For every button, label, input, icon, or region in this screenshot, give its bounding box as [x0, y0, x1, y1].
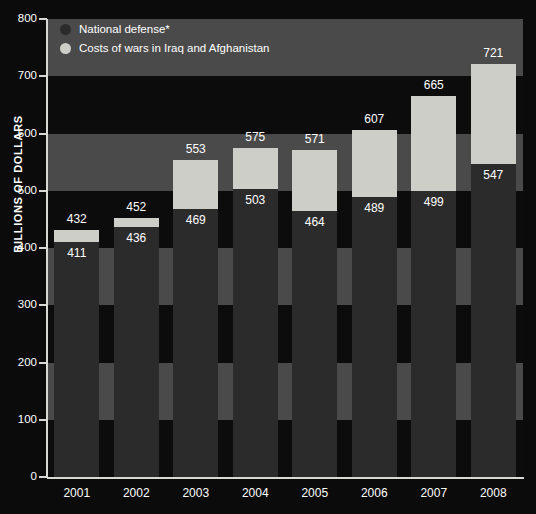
bar-base-label: 503	[245, 194, 265, 206]
x-axis-label: 2004	[242, 487, 269, 499]
y-axis-tick-label: 500	[3, 185, 37, 197]
bar-total-label: 575	[245, 131, 265, 143]
chart-figure: BILLIONS OF DOLLARS 43241145243655346957…	[0, 0, 536, 514]
bar-stack[interactable]: 607489	[352, 130, 397, 478]
y-axis-tick	[39, 190, 47, 192]
bar-segment-war-costs[interactable]	[352, 130, 397, 198]
bar-total-label: 571	[305, 133, 325, 145]
y-axis-tick-label-wrap: 200	[0, 357, 37, 369]
bar-segment-war-costs[interactable]	[411, 96, 456, 191]
x-axis-label: 2001	[63, 487, 90, 499]
y-axis-tick-label-wrap: 300	[0, 299, 37, 311]
y-axis-tick-label-wrap: 500	[0, 185, 37, 197]
bar-stack[interactable]: 452436	[114, 218, 159, 477]
y-axis-tick-label-wrap: 700	[0, 70, 37, 82]
chart-legend: National defense* Costs of wars in Iraq …	[60, 20, 270, 58]
y-axis-tick-label: 400	[3, 242, 37, 254]
bar-stack[interactable]: 553469	[173, 160, 218, 477]
y-axis-tick	[39, 476, 47, 478]
y-axis-tick-label: 200	[3, 357, 37, 369]
bar-segment-war-costs[interactable]	[173, 160, 218, 208]
bar-stack[interactable]: 575503	[233, 148, 278, 477]
bar-total-label: 553	[186, 143, 206, 155]
y-axis-tick-label-wrap: 0	[0, 471, 37, 483]
bar-segment-war-costs[interactable]	[54, 230, 99, 242]
bar-segment-national-defense[interactable]	[233, 189, 278, 477]
y-axis-tick	[39, 18, 47, 20]
bar-segment-war-costs[interactable]	[233, 148, 278, 189]
bar-total-label: 432	[67, 213, 87, 225]
bar-segment-national-defense[interactable]	[292, 211, 337, 477]
y-axis-tick-label: 300	[3, 299, 37, 311]
bar-segment-war-costs[interactable]	[471, 64, 516, 164]
bar-stack[interactable]: 571464	[292, 150, 337, 477]
x-axis-line	[47, 477, 524, 479]
y-axis-tick-label: 100	[3, 414, 37, 426]
y-axis-tick	[39, 133, 47, 135]
x-axis-label: 2006	[361, 487, 388, 499]
bar-base-label: 547	[483, 169, 503, 181]
legend-label-war-costs: Costs of wars in Iraq and Afghanistan	[79, 43, 270, 55]
bar-stack[interactable]: 665499	[411, 96, 456, 477]
bar-total-label: 607	[364, 113, 384, 125]
legend-item-national-defense[interactable]: National defense*	[60, 20, 270, 39]
legend-swatch-war-costs	[60, 43, 71, 54]
bar-stack[interactable]: 432411	[54, 230, 99, 477]
x-axis-label: 2005	[301, 487, 328, 499]
bar-stack[interactable]: 721547	[471, 64, 516, 477]
legend-item-war-costs[interactable]: Costs of wars in Iraq and Afghanistan	[60, 39, 270, 58]
bar-base-label: 464	[305, 216, 325, 228]
y-axis-tick	[39, 362, 47, 364]
bar-segment-national-defense[interactable]	[54, 242, 99, 477]
y-axis-tick-label: 0	[3, 471, 37, 483]
y-axis-tick-label: 800	[3, 13, 37, 25]
y-axis-tick	[39, 304, 47, 306]
y-axis-tick	[39, 419, 47, 421]
bar-total-label: 665	[424, 79, 444, 91]
x-axis-label: 2002	[123, 487, 150, 499]
bar-base-label: 489	[364, 202, 384, 214]
bar-base-label: 436	[126, 232, 146, 244]
x-axis-label: 2003	[182, 487, 209, 499]
y-axis-tick-label: 700	[3, 70, 37, 82]
plot-area: 4324114524365534695755035714646074896654…	[47, 19, 523, 477]
bar-base-label: 411	[67, 247, 86, 259]
bar-total-label: 721	[483, 47, 503, 59]
x-axis-label: 2007	[420, 487, 447, 499]
y-axis-tick-label-wrap: 600	[0, 128, 37, 140]
bar-segment-national-defense[interactable]	[352, 197, 397, 477]
bar-segment-national-defense[interactable]	[114, 227, 159, 477]
bar-base-label: 499	[424, 196, 444, 208]
bar-segment-national-defense[interactable]	[411, 191, 456, 477]
legend-label-national-defense: National defense*	[79, 24, 170, 36]
bar-segment-war-costs[interactable]	[292, 150, 337, 211]
y-axis-tick	[39, 75, 47, 77]
bar-base-label: 469	[186, 214, 206, 226]
bar-segment-national-defense[interactable]	[173, 209, 218, 478]
y-axis-tick-label-wrap: 400	[0, 242, 37, 254]
y-axis-tick-label-wrap: 100	[0, 414, 37, 426]
legend-swatch-national-defense	[60, 24, 71, 35]
y-axis-tick	[39, 247, 47, 249]
x-axis-label: 2008	[480, 487, 507, 499]
bar-total-label: 452	[126, 201, 146, 213]
y-axis-tick-label-wrap: 800	[0, 13, 37, 25]
y-axis-tick-label: 600	[3, 128, 37, 140]
bar-segment-war-costs[interactable]	[114, 218, 159, 227]
bar-segment-national-defense[interactable]	[471, 164, 516, 477]
